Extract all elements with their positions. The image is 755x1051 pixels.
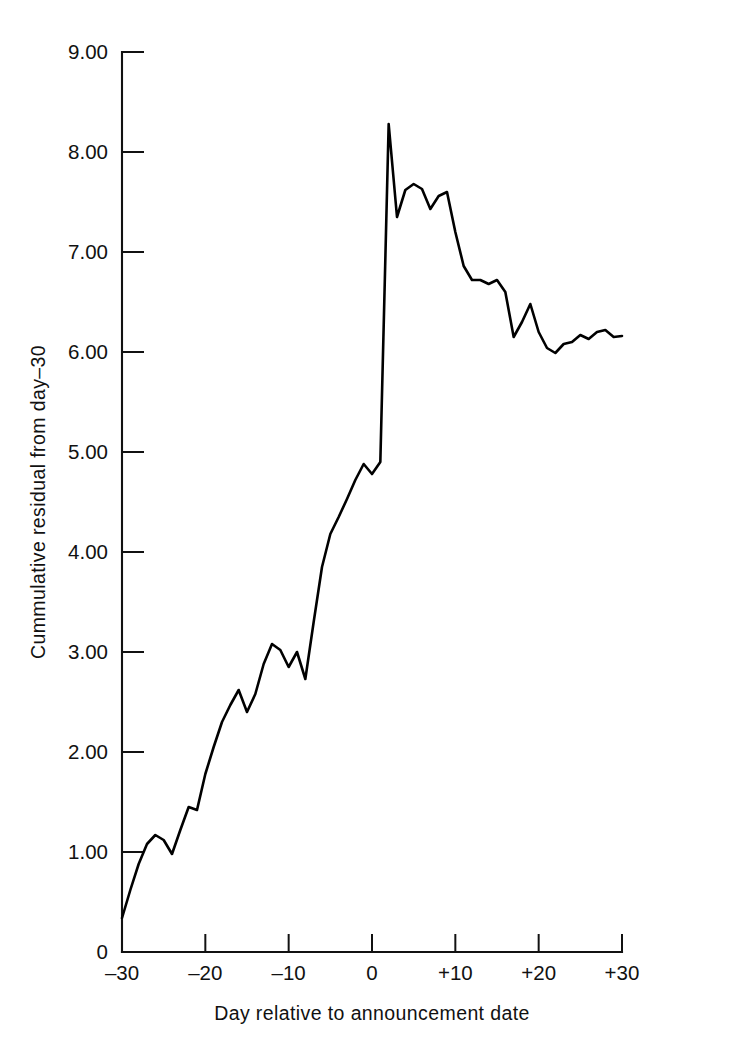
line-chart: 01.002.003.004.005.006.007.008.009.00 –3… [0,0,755,1051]
y-tick-label: 3.00 [68,640,108,663]
x-axis-ticks: –30–20–100+10+20+30 [105,930,640,984]
y-tick-label: 6.00 [68,340,108,363]
y-tick-label: 5.00 [68,440,108,463]
x-tick-label: +10 [438,961,473,984]
x-tick-label: –30 [105,961,139,984]
x-tick-label: –10 [272,961,306,984]
y-tick-label: 1.00 [68,840,108,863]
y-axis-title: Cummulative residual from day–30 [27,345,49,659]
data-series-line [122,124,622,918]
y-axis-ticks: 01.002.003.004.005.006.007.008.009.00 [68,40,144,963]
y-tick-label: 8.00 [68,140,108,163]
x-tick-label: –20 [188,961,222,984]
x-tick-label: 0 [366,961,377,984]
y-tick-label: 0 [97,940,108,963]
chart-figure: 01.002.003.004.005.006.007.008.009.00 –3… [0,0,755,1051]
y-tick-label: 9.00 [68,40,108,63]
y-tick-label: 7.00 [68,240,108,263]
y-tick-label: 2.00 [68,740,108,763]
x-axis-title: Day relative to announcement date [214,1002,530,1024]
x-tick-label: +20 [521,961,556,984]
y-tick-label: 4.00 [68,540,108,563]
x-tick-label: +30 [605,961,640,984]
